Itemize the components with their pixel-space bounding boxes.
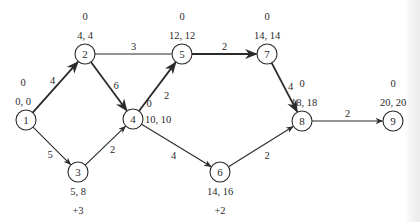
node-times-label: 5, 8: [70, 186, 86, 197]
edge-weight-label: 2: [264, 150, 269, 161]
node-number: 2: [82, 48, 88, 60]
network-diagram-svg: 45362242242 10, 0024, 4035, 8+3410, 1005…: [0, 0, 420, 222]
edge-2-4: 6: [91, 62, 127, 111]
node-2: 24, 40: [75, 11, 95, 64]
node-slack-label: +3: [72, 205, 83, 216]
edge-6-8: 2: [228, 127, 293, 167]
node-number: 6: [217, 166, 223, 178]
node-times-label: 18, 18: [291, 97, 317, 108]
edge-weight-label: 3: [131, 41, 136, 52]
edge-weight-label: 2: [345, 108, 350, 119]
node-slack-label: 0: [82, 11, 87, 22]
edge-4-6: 4: [142, 124, 211, 166]
node-number: 7: [264, 48, 270, 60]
node-slack-label: 0: [20, 77, 25, 88]
edge-1-2: 4: [33, 62, 78, 113]
node-times-label: 0, 0: [15, 96, 31, 107]
edge-weight-label: 2: [164, 90, 169, 101]
network-diagram: 45362242242 10, 0024, 4035, 8+3410, 1005…: [0, 0, 420, 222]
node-times-label: 14, 16: [207, 186, 233, 197]
node-number: 4: [130, 113, 136, 125]
edge-weight-label: 4: [50, 75, 56, 86]
node-6: 614, 16+2: [207, 162, 233, 216]
edge-2-5: 3: [95, 41, 172, 55]
node-number: 1: [23, 114, 29, 126]
edge-line: [85, 126, 125, 165]
node-9: 920, 200: [380, 78, 406, 131]
edge-weight-label: 4: [288, 81, 294, 92]
edge-weight-label: 2: [110, 144, 115, 155]
edge-line: [142, 124, 211, 166]
edge-1-3: 5: [33, 127, 71, 165]
edge-weight-label: 2: [222, 41, 227, 52]
node-1: 10, 00: [15, 77, 36, 130]
node-slack-label: 0: [146, 98, 151, 109]
edge-3-4: 2: [85, 126, 125, 165]
edge-4-5: 2: [139, 62, 176, 111]
edge-8-9: 2: [312, 108, 383, 122]
edge-5-7: 2: [192, 41, 257, 55]
edge-weight-label: 6: [113, 80, 118, 91]
node-times-label: 14, 14: [254, 30, 281, 41]
node-slack-label: 0: [264, 11, 269, 22]
node-number: 5: [179, 48, 185, 60]
edge-line: [228, 127, 293, 167]
node-times-label: 12, 12: [169, 30, 195, 41]
node-slack-label: +2: [214, 205, 225, 216]
edge-weight-label: 5: [47, 149, 52, 160]
edge-line: [33, 62, 78, 113]
node-slack-label: 0: [179, 11, 184, 22]
node-5: 512, 120: [169, 11, 195, 64]
node-3: 35, 8+3: [68, 162, 88, 216]
node-number: 8: [299, 115, 305, 127]
node-times-label: 4, 4: [77, 30, 94, 41]
node-times-label: 10, 10: [145, 114, 171, 125]
node-4: 410, 100: [123, 98, 171, 129]
node-number: 9: [390, 115, 396, 127]
edge-line: [139, 62, 176, 111]
node-slack-label: 0: [390, 78, 395, 89]
edge-weight-label: 4: [171, 150, 177, 161]
edge-line: [91, 62, 127, 111]
node-number: 3: [75, 166, 81, 178]
node-slack-label: 0: [299, 78, 304, 89]
node-times-label: 20, 20: [380, 97, 406, 108]
node-8: 818, 180: [291, 78, 317, 131]
node-7: 714, 140: [254, 11, 281, 64]
